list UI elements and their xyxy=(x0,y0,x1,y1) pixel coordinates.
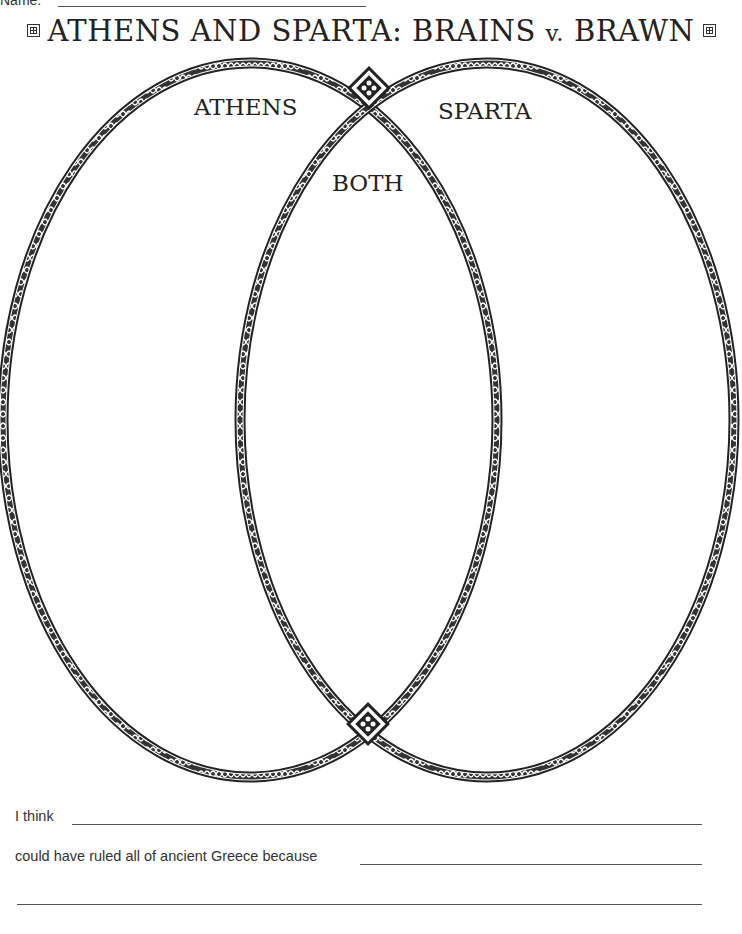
sparta-label: SPARTA xyxy=(438,98,531,124)
answer-line-3[interactable] xyxy=(17,904,702,905)
athens-label: ATHENS xyxy=(194,94,297,120)
answer-line-2[interactable] xyxy=(360,864,702,865)
venn-diagram xyxy=(0,0,742,934)
because-label: could have ruled all of ancient Greece b… xyxy=(15,848,317,864)
i-think-label: I think xyxy=(15,808,54,824)
sparta-circle xyxy=(240,63,734,777)
answer-line-1[interactable] xyxy=(72,824,702,825)
athens-circle xyxy=(3,63,497,777)
both-label: BOTH xyxy=(332,170,404,196)
